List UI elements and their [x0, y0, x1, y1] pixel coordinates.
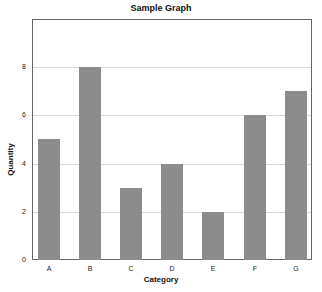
y-tick-label: 8 — [14, 63, 26, 70]
y-tick-label: 4 — [14, 160, 26, 167]
y-tick-label: 0 — [14, 256, 26, 263]
bar-f — [244, 115, 266, 260]
gridline — [33, 115, 311, 116]
bar-b — [79, 67, 101, 260]
chart-title: Sample Graph — [0, 3, 322, 13]
x-tick-label: F — [244, 265, 266, 272]
bar-d — [161, 164, 183, 260]
gridline — [33, 67, 311, 68]
x-tick-label: C — [120, 265, 142, 272]
bar-c — [120, 188, 142, 260]
x-tick-label: B — [79, 265, 101, 272]
y-axis-label: Quantity — [6, 130, 15, 190]
x-tick-label: G — [285, 265, 307, 272]
bar-g — [285, 91, 307, 260]
x-tick-label: A — [38, 265, 60, 272]
x-tick-label: E — [202, 265, 224, 272]
x-axis-label: Category — [0, 275, 322, 284]
y-tick-label: 6 — [14, 111, 26, 118]
bar-a — [38, 139, 60, 260]
y-tick-label: 2 — [14, 208, 26, 215]
x-tick-label: D — [161, 265, 183, 272]
bar-e — [202, 212, 224, 260]
